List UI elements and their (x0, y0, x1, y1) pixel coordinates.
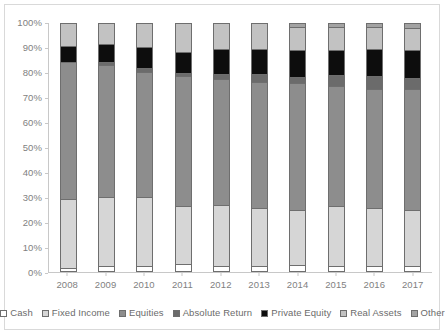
bar-segment-private-equity[interactable] (136, 47, 153, 68)
bar-segment-fixed-income[interactable] (404, 210, 421, 266)
bar-segment-private-equity[interactable] (60, 46, 77, 61)
bar-segment-equities[interactable] (366, 89, 383, 208)
bar-segment-private-equity[interactable] (366, 49, 383, 76)
bar-segment-fixed-income[interactable] (60, 199, 77, 268)
bar-column (394, 23, 432, 272)
bar-column (164, 23, 202, 272)
bar-segment-real-assets[interactable] (136, 23, 153, 47)
bar-segment-fixed-income[interactable] (328, 206, 345, 266)
stacked-bar[interactable] (213, 23, 230, 272)
bar-segment-fixed-income[interactable] (175, 206, 192, 264)
bar-segment-cash[interactable] (60, 268, 77, 272)
x-tick-cell: 2009 (86, 273, 124, 295)
bars-group (49, 23, 432, 272)
bar-segment-cash[interactable] (366, 266, 383, 272)
bar-segment-equities[interactable] (60, 62, 77, 199)
bar-segment-private-equity[interactable] (175, 52, 192, 73)
x-tick-mark (335, 273, 336, 276)
bar-segment-cash[interactable] (136, 266, 153, 272)
legend-item-fixed-income[interactable]: Fixed Income (42, 308, 110, 318)
x-tick-cell: 2016 (355, 273, 393, 295)
bar-segment-private-equity[interactable] (98, 44, 115, 62)
bar-segment-cash[interactable] (404, 266, 421, 272)
stacked-bar[interactable] (175, 23, 192, 272)
bar-segment-equities[interactable] (213, 79, 230, 205)
stacked-bar[interactable] (98, 23, 115, 272)
bar-segment-fixed-income[interactable] (366, 208, 383, 266)
bar-segment-cash[interactable] (213, 266, 230, 272)
bar-segment-private-equity[interactable] (328, 50, 345, 75)
legend-swatch-icon (261, 310, 268, 317)
stacked-bar[interactable] (60, 23, 77, 272)
bar-segment-absolute-return[interactable] (366, 76, 383, 89)
bar-segment-equities[interactable] (328, 86, 345, 207)
bar-segment-private-equity[interactable] (213, 49, 230, 73)
bar-segment-private-equity[interactable] (251, 49, 268, 74)
bar-segment-real-assets[interactable] (98, 23, 115, 44)
bar-segment-cash[interactable] (175, 264, 192, 272)
bar-segment-real-assets[interactable] (60, 23, 77, 46)
bar-segment-fixed-income[interactable] (136, 197, 153, 265)
legend-swatch-icon (42, 310, 49, 317)
legend-label: Cash (10, 308, 33, 318)
x-axis: 2008200920102011201220132014201520162017 (48, 273, 432, 295)
bar-segment-equities[interactable] (289, 83, 306, 209)
bar-segment-equities[interactable] (98, 65, 115, 197)
stacked-bar[interactable] (404, 23, 421, 272)
bar-segment-private-equity[interactable] (404, 50, 421, 78)
bar-segment-real-assets[interactable] (251, 23, 268, 49)
bar-segment-fixed-income[interactable] (289, 210, 306, 265)
x-tick-label: 2011 (172, 279, 193, 290)
x-tick-cell: 2008 (48, 273, 86, 295)
bar-segment-equities[interactable] (251, 82, 268, 208)
plot-area (48, 23, 432, 273)
legend-item-real-assets[interactable]: Real Assets (340, 308, 401, 318)
legend-item-other[interactable]: Other (411, 308, 445, 318)
stacked-bar[interactable] (366, 23, 383, 272)
x-tick-mark (374, 273, 375, 276)
y-tick-label: 30% (23, 193, 42, 203)
bar-segment-real-assets[interactable] (175, 23, 192, 52)
bar-segment-absolute-return[interactable] (328, 75, 345, 86)
stacked-bar[interactable] (251, 23, 268, 272)
legend-swatch-icon (411, 310, 418, 317)
y-tick-label: 10% (23, 243, 42, 253)
legend-swatch-icon (173, 310, 180, 317)
legend-label: Other (421, 308, 445, 318)
bar-segment-fixed-income[interactable] (251, 208, 268, 267)
bar-segment-cash[interactable] (289, 265, 306, 272)
x-tick-mark (67, 273, 68, 276)
bar-segment-real-assets[interactable] (289, 27, 306, 51)
bar-segment-fixed-income[interactable] (213, 205, 230, 267)
x-tick-cell: 2015 (317, 273, 355, 295)
bar-segment-equities[interactable] (175, 76, 192, 206)
chart-container: 0%10%20%30%40%50%60%70%80%90%100% 200820… (0, 0, 445, 335)
bar-segment-real-assets[interactable] (328, 27, 345, 50)
legend-item-absolute-return[interactable]: Absolute Return (173, 308, 253, 318)
legend-label: Fixed Income (52, 308, 110, 318)
x-tick-label: 2008 (56, 279, 78, 290)
bar-segment-fixed-income[interactable] (98, 197, 115, 266)
bar-segment-real-assets[interactable] (213, 23, 230, 49)
stacked-bar[interactable] (289, 23, 306, 272)
x-tick-mark (412, 273, 413, 276)
legend-item-private-equity[interactable]: Private Equity (261, 308, 331, 318)
legend-label: Private Equity (271, 308, 331, 318)
bar-segment-absolute-return[interactable] (404, 78, 421, 89)
bar-segment-equities[interactable] (136, 72, 153, 198)
bar-segment-cash[interactable] (328, 266, 345, 272)
stacked-bar[interactable] (136, 23, 153, 272)
x-tick-mark (220, 273, 221, 276)
bar-segment-real-assets[interactable] (404, 28, 421, 50)
bar-segment-equities[interactable] (404, 89, 421, 210)
bar-segment-absolute-return[interactable] (251, 74, 268, 81)
bar-segment-private-equity[interactable] (289, 50, 306, 77)
bar-segment-cash[interactable] (98, 266, 115, 272)
legend-item-equities[interactable]: Equities (119, 308, 164, 318)
bar-segment-cash[interactable] (251, 266, 268, 272)
y-tick-label: 70% (23, 93, 42, 103)
bar-segment-real-assets[interactable] (366, 27, 383, 49)
legend-item-cash[interactable]: Cash (0, 308, 33, 318)
y-tick-label: 80% (23, 68, 42, 78)
stacked-bar[interactable] (328, 23, 345, 272)
